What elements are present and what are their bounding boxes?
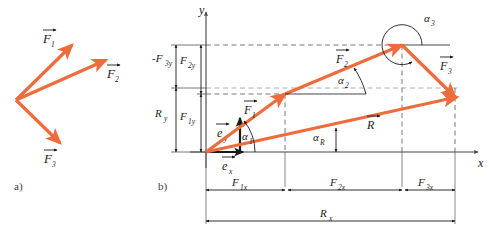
label-e-y-text: e [217,126,223,140]
label-neg-F3y-text: -F [152,52,163,64]
vector-F2-arrow-b [285,45,402,94]
label-alpha-1-text: α [242,130,248,142]
label-F1x-sub: 1x [240,183,248,192]
label-F1-a: F 1 [42,30,56,49]
label-F1y-text: F [179,110,187,122]
label-F2y-sub: 2y [188,61,196,70]
label-F3-b: F 3 [439,57,453,76]
x-axis-label: x [477,156,484,170]
panel-b: x y e y e x F 1 F 2 [152,3,484,224]
label-Ry-sub: y [163,114,168,123]
label-F1-b-text: F [243,103,252,117]
vector-diagram-svg: F 1 F 2 F 3 a) [0,0,489,234]
vector-F2-arrow-a [16,60,106,100]
label-F2y: F 2y [179,54,196,70]
label-R-b: R [366,116,380,132]
label-F2-a-sub: 2 [115,75,119,84]
label-F3-b-sub: 3 [447,67,452,76]
label-alpha-3-sub: 3 [430,19,435,28]
label-neg-F3y-sub: 3y [164,59,173,68]
label-neg-F3y: -F 3y [152,52,173,68]
label-F3-a-sub: 3 [51,160,56,169]
label-F2-b-sub: 2 [344,60,348,69]
label-alpha-3: α 3 [424,12,435,28]
label-F2-a: F 2 [106,65,120,84]
label-Ry: R y [154,107,168,123]
vector-F3-arrow-a [16,100,60,143]
y-axis-label: y [198,3,205,17]
label-Ry-text: R [154,107,162,119]
label-R-b-text: R [366,118,375,132]
label-F1x-text: F [231,176,239,188]
label-alpha-R-sub: R [319,138,325,147]
label-alpha-R: α R [313,131,325,147]
label-alpha-1-sub: 1 [249,137,253,146]
panel-b-label: b) [158,180,168,193]
panel-a: F 1 F 2 F 3 a) [14,30,120,193]
label-Rx-sub: x [328,214,333,223]
label-alpha-3-text: α [424,12,430,24]
label-F1-a-sub: 1 [51,40,55,49]
label-F3x-text: F [417,176,425,188]
label-F2-b-text: F [335,52,344,66]
vector-F1-arrow-a [16,45,72,100]
label-e-x: e x [222,157,235,176]
label-F3x-sub: 3x [425,183,434,192]
label-F1y-sub: 1y [188,117,196,126]
label-Rx-text: R [319,207,327,219]
label-F1y: F 1y [179,110,196,126]
label-F1-b-sub: 1 [252,111,256,120]
label-alpha-R-text: α [313,131,319,143]
label-F3-b-text: F [439,59,448,73]
label-F2x-sub: 2x [338,183,346,192]
label-alpha-2-text: α [338,74,344,86]
angle-alpha-2-arc [354,68,366,94]
label-F2y-text: F [179,54,187,66]
label-F1-b: F 1 [243,101,257,120]
label-F2-b: F 2 [335,50,349,69]
label-e-x-sub: x [228,167,233,176]
figure-root: F 1 F 2 F 3 a) [0,0,489,234]
label-F3-a: F 3 [43,150,57,169]
label-F2x-text: F [329,176,337,188]
label-alpha-2-sub: 2 [345,81,349,90]
label-e-x-text: e [222,159,228,173]
panel-a-label: a) [14,180,23,193]
